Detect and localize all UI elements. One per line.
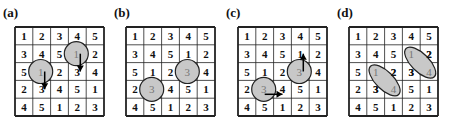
svg-text:1: 1	[373, 66, 379, 78]
svg-text:4: 4	[391, 83, 397, 95]
svg-text:4: 4	[426, 66, 432, 78]
grid-cell: 1	[426, 83, 432, 95]
grid-cell: 4	[355, 101, 361, 113]
grid-cell: 5	[373, 101, 379, 113]
grid-cell: 5	[355, 66, 361, 78]
grid-cell: 2	[373, 30, 379, 42]
grid-cell: 4	[373, 48, 379, 60]
grid-cell: 3	[355, 48, 361, 60]
grid-cell: 3	[426, 101, 432, 113]
grid-diagram: (d)12345345252323514512314231423	[0, 0, 453, 125]
panel-label: (d)	[337, 5, 353, 20]
grid-cell: 5	[391, 48, 397, 60]
grid-cell: 3	[391, 30, 397, 42]
grid-cell: 1	[391, 101, 397, 113]
panel-d: (d)12345345252323514512314231423	[0, 0, 112, 125]
svg-text:3: 3	[409, 66, 415, 78]
svg-text:2: 2	[426, 48, 432, 60]
grid-cell: 5	[409, 83, 415, 95]
grid-cell: 5	[426, 30, 432, 42]
svg-text:2: 2	[391, 66, 397, 78]
grid-cell: 4	[409, 30, 415, 42]
svg-text:3: 3	[373, 83, 379, 95]
grid-cell: 2	[409, 101, 415, 113]
grid-cell: 2	[355, 83, 361, 95]
grid-cell: 1	[355, 30, 361, 42]
svg-text:1: 1	[409, 48, 415, 60]
